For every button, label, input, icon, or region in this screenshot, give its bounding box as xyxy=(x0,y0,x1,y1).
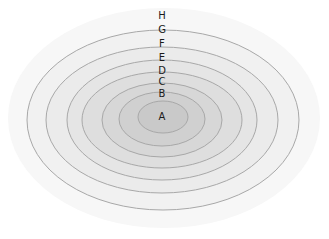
ring-label-h: H xyxy=(158,10,166,21)
nested-ellipse-diagram: HGFEDCBA xyxy=(0,0,329,239)
ring-label-e: E xyxy=(159,52,165,63)
ring-label-c: C xyxy=(159,76,166,87)
ring-label-a: A xyxy=(159,111,166,122)
ring-label-d: D xyxy=(158,65,166,76)
ring-label-g: G xyxy=(158,24,166,35)
ring-label-f: F xyxy=(159,38,165,49)
ring-label-b: B xyxy=(159,88,166,99)
